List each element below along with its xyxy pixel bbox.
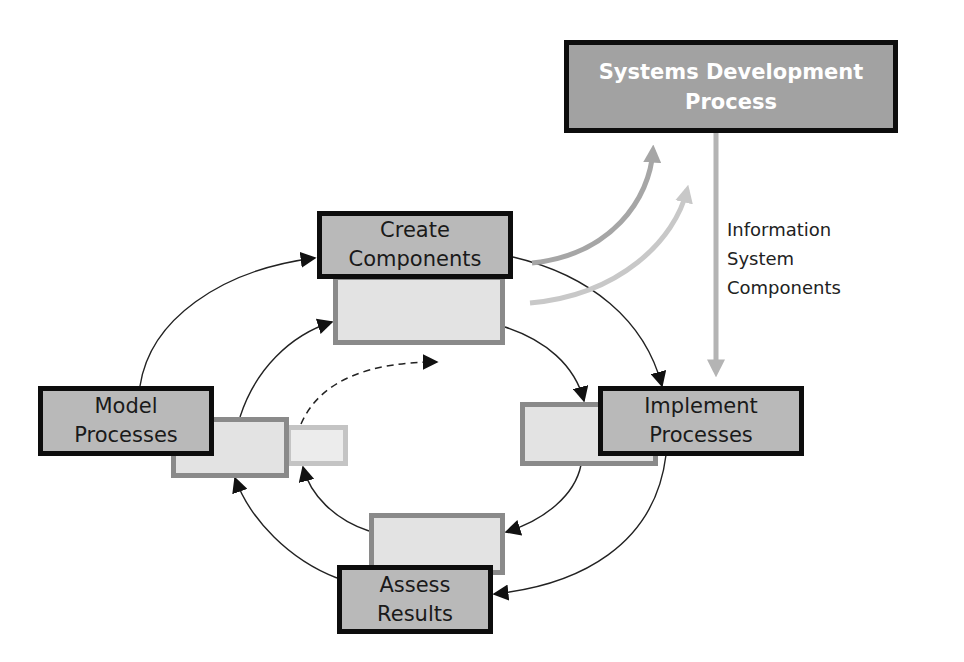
node-label: Model Processes bbox=[74, 392, 178, 450]
arrow-inner-model-to-create bbox=[240, 322, 332, 417]
node-model-processes: Model Processes bbox=[38, 386, 214, 456]
node-label-line: Create bbox=[349, 216, 482, 245]
arrow-gray-create-to-sdp bbox=[532, 150, 653, 263]
node-label-line: Process bbox=[599, 87, 864, 117]
edge-label-line: Components bbox=[727, 273, 841, 302]
edge-label-information-system-components: Information System Components bbox=[727, 215, 841, 302]
arrow-inner-assess-to-model bbox=[303, 467, 369, 531]
node-create-components: Create Components bbox=[317, 211, 513, 279]
node-label-line: Model bbox=[74, 392, 178, 421]
node-label-line: Assess bbox=[377, 571, 453, 600]
node-label: Assess Results bbox=[377, 571, 453, 629]
node-systems-development-process: Systems Development Process bbox=[564, 40, 898, 133]
node-label-line: Components bbox=[349, 245, 482, 274]
node-label: Systems Development Process bbox=[599, 57, 864, 117]
node-create-components-shadow bbox=[333, 275, 505, 345]
node-label-line: Processes bbox=[644, 421, 758, 450]
cropped-caption-remnant bbox=[0, 0, 964, 3]
arrow-implement-to-assess bbox=[494, 455, 666, 594]
arrow-create-to-implement bbox=[513, 257, 662, 386]
node-model-processes-faint-shadow bbox=[286, 425, 348, 466]
node-label-line: Implement bbox=[644, 392, 758, 421]
edge-label-line: Information bbox=[727, 215, 841, 244]
node-label: Implement Processes bbox=[644, 392, 758, 450]
diagram-canvas: Systems Development Process Create Compo… bbox=[0, 0, 964, 662]
node-label-line: Results bbox=[377, 600, 453, 629]
node-label-line: Systems Development bbox=[599, 57, 864, 87]
node-label-line: Processes bbox=[74, 421, 178, 450]
node-label: Create Components bbox=[349, 216, 482, 274]
arrow-model-to-create bbox=[140, 258, 315, 386]
node-implement-processes: Implement Processes bbox=[598, 386, 804, 456]
node-assess-results: Assess Results bbox=[337, 565, 493, 634]
edge-label-line: System bbox=[727, 244, 841, 273]
arrow-inner-create-to-implement bbox=[505, 327, 584, 401]
arrow-assess-to-model bbox=[235, 478, 337, 578]
arrow-gray-create-light-to-sdp bbox=[530, 190, 687, 303]
arrow-inner-implement-to-assess bbox=[506, 465, 581, 532]
arrow-dashed-next-iteration bbox=[301, 362, 437, 424]
